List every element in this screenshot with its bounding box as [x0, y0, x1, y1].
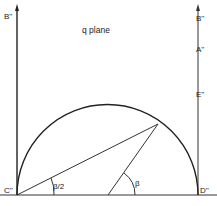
left-arrow-icon	[15, 4, 19, 11]
label-beta: β	[135, 179, 140, 188]
full-angle-arc	[124, 173, 135, 195]
label-d: D''	[200, 186, 209, 195]
q-plane-diagram: B'' q plane B'' A'' E'' C'' D'' β/2 β	[0, 0, 217, 206]
diagram-title: q plane	[82, 25, 110, 35]
label-b-right: B''	[196, 14, 205, 23]
label-b-left: B''	[4, 12, 13, 21]
right-arrow-icon	[196, 4, 200, 11]
label-c: C''	[4, 186, 13, 195]
label-e: E''	[196, 90, 205, 99]
label-half-beta: β/2	[53, 182, 65, 191]
label-a: A''	[196, 45, 205, 54]
